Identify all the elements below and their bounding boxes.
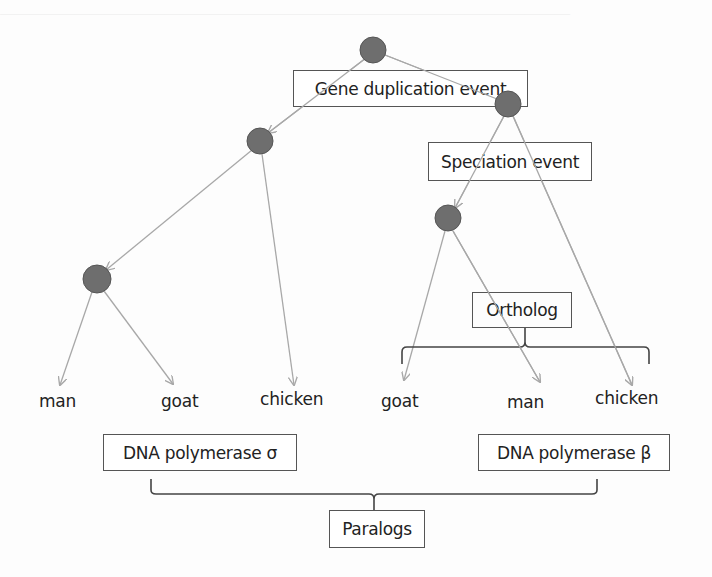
leaf-left-man: man [39,391,76,411]
node-duplicate-left [247,128,273,154]
node-duplicate-right [495,91,521,117]
leaf-left-goat: goat [161,391,198,411]
leaf-right-chicken: chicken [595,388,658,408]
leaf-left-chicken: chicken [260,389,323,409]
node-speciation-right [435,205,461,231]
leaf-right-goat: goat [381,391,418,411]
node-root [360,37,386,63]
node-speciation-left [83,265,111,293]
leaf-right-man: man [507,392,544,412]
overlay-edges [0,0,712,577]
